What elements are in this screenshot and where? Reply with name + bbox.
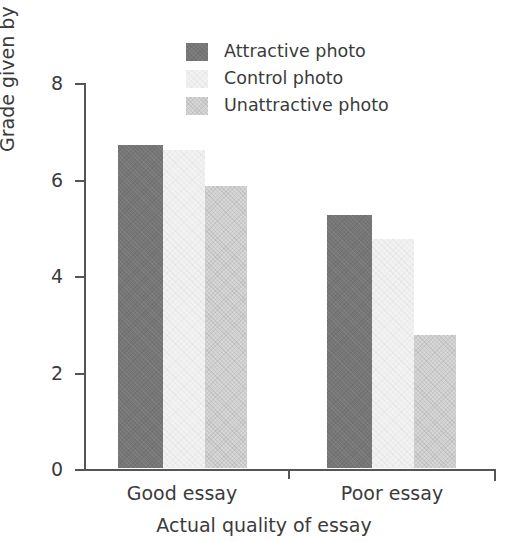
bar-good-attractive bbox=[118, 145, 163, 468]
y-tick-2: 2 bbox=[75, 373, 84, 375]
y-tick-8: 8 bbox=[75, 83, 84, 85]
y-tick-label-8: 8 bbox=[51, 72, 63, 94]
y-axis-title: Grade given by students bbox=[0, 0, 18, 152]
legend-item-attractive: Attractive photo bbox=[186, 38, 389, 65]
bar-good-control bbox=[163, 150, 205, 468]
x-axis-title: Actual quality of essay bbox=[0, 514, 528, 536]
y-tick-0: 0 bbox=[75, 469, 84, 471]
x-axis-line bbox=[84, 469, 496, 471]
bar-poor-unattractive bbox=[414, 335, 456, 468]
y-tick-label-4: 4 bbox=[51, 265, 63, 287]
bar-poor-attractive bbox=[327, 215, 372, 468]
x-tick-axis-end bbox=[494, 469, 496, 481]
y-tick-label-2: 2 bbox=[51, 362, 63, 384]
bar-poor-control bbox=[372, 239, 414, 468]
x-category-label-poor: Poor essay bbox=[341, 482, 443, 504]
plot-area: 8 6 4 2 0 bbox=[84, 83, 496, 470]
y-tick-label-6: 6 bbox=[51, 169, 63, 191]
y-tick-label-0: 0 bbox=[51, 458, 63, 480]
x-tick-group-separator bbox=[288, 469, 290, 479]
legend-swatch-attractive-icon bbox=[186, 43, 208, 61]
legend-label-attractive: Attractive photo bbox=[224, 43, 366, 61]
bar-good-unattractive bbox=[205, 186, 247, 468]
y-tick-6: 6 bbox=[75, 180, 84, 182]
y-axis-line bbox=[84, 83, 86, 471]
x-category-label-good: Good essay bbox=[127, 482, 237, 504]
bar-chart: Attractive photo Control photo Unattract… bbox=[0, 0, 528, 542]
y-tick-4: 4 bbox=[75, 276, 84, 278]
